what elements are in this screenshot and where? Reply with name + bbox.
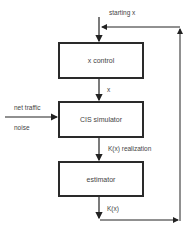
node-label: CIS simulator xyxy=(80,116,122,123)
edge-label-kx-realization: K(x) realization xyxy=(108,145,151,152)
node-estimator: estimator xyxy=(58,161,144,197)
node-label: x control xyxy=(88,57,114,64)
node-x-control: x control xyxy=(58,42,144,79)
side-input-line1: net traffic xyxy=(14,104,41,111)
edge-label-x: x xyxy=(107,86,110,93)
side-input-line2: noise xyxy=(14,124,30,131)
edge-label-kx: K(x) xyxy=(107,205,119,212)
input-label: starting x xyxy=(109,9,135,16)
node-label: estimator xyxy=(87,176,116,183)
node-cis-simulator: CIS simulator xyxy=(58,101,144,138)
